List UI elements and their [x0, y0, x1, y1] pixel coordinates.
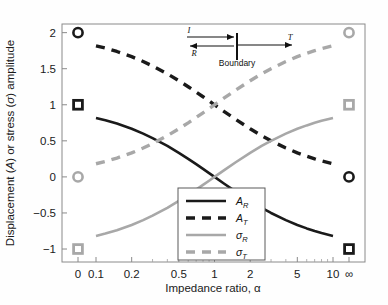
- endpoint-marker-square: [345, 245, 354, 254]
- x-tick-label: 10: [327, 268, 340, 280]
- endpoint-marker-circle: [73, 172, 82, 181]
- legend-subscript-2: R: [242, 235, 248, 244]
- figure-container: 21.510.50−0.5−1 00.10.20.512510∞ I R T B…: [0, 0, 388, 305]
- y-tick-label: −1: [43, 243, 56, 255]
- y-tick-label: 2: [50, 27, 56, 39]
- endpoint-marker-circle: [344, 28, 353, 37]
- y-title-seg3: ) amplitude: [4, 40, 16, 97]
- x-tick-label: 0.5: [171, 268, 187, 280]
- inset-boundary-label: Boundary: [219, 58, 256, 68]
- x-tick-label: 1: [211, 268, 217, 280]
- x-axis-title-text: Impedance ratio, α: [165, 282, 261, 294]
- y-axis-title: Displacement (A) or stress (σ) amplitude: [4, 40, 16, 246]
- endpoint-marker-square: [74, 245, 83, 254]
- chart-svg: 21.510.50−0.5−1 00.10.20.512510∞ I R T B…: [0, 0, 388, 305]
- x-tick-label: 0.2: [124, 268, 140, 280]
- y-tick-label: 0: [50, 171, 56, 183]
- inset-reflected-label: R: [190, 48, 197, 58]
- y-tick-label: 0.5: [40, 135, 56, 147]
- y-title-seg1: Displacement (: [4, 169, 16, 246]
- y-title-seg2: ) or stress (: [4, 103, 16, 161]
- endpoint-marker-circle: [344, 172, 353, 181]
- y-tick-label: −0.5: [33, 207, 56, 219]
- y-tick-label: 1.5: [40, 63, 56, 75]
- y-title-italic-a: A: [4, 161, 16, 170]
- endpoint-marker-square: [345, 100, 354, 109]
- x-tick-label: 2: [247, 268, 253, 280]
- x-tick-label: 0.1: [88, 268, 104, 280]
- x-tick-label: 5: [294, 268, 300, 280]
- x-tick-label: 0: [75, 268, 81, 280]
- y-tick-label: 1: [50, 99, 56, 111]
- legend-subscript-0: R: [243, 201, 249, 210]
- legend-box: [178, 188, 265, 260]
- x-tick-label: ∞: [345, 268, 353, 280]
- chart-legend[interactable]: ARATσRσT: [178, 188, 265, 261]
- x-axis-title: Impedance ratio, α: [165, 282, 261, 294]
- endpoint-marker-square: [74, 100, 83, 109]
- endpoint-marker-circle: [73, 28, 82, 37]
